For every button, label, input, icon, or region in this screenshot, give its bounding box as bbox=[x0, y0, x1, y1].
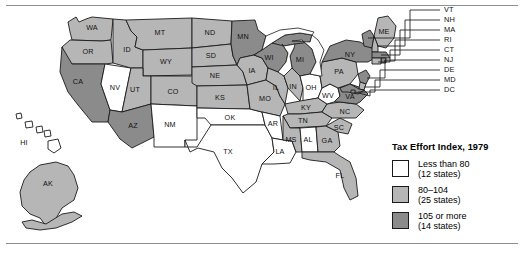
label-IL: IL bbox=[273, 83, 279, 92]
legend-swatch-high bbox=[392, 212, 409, 229]
label-WI: WI bbox=[264, 53, 273, 62]
state-TX[interactable] bbox=[185, 125, 274, 193]
label-IN: IN bbox=[289, 82, 297, 91]
label-FL: FL bbox=[336, 171, 345, 180]
label-MN: MN bbox=[237, 32, 249, 41]
legend-title: Tax Effort Index, 1979 bbox=[392, 142, 520, 152]
state-FL[interactable] bbox=[302, 152, 358, 200]
callout-label-md: MD bbox=[444, 76, 456, 84]
legend-text-low: Less than 80(12 states) bbox=[418, 159, 470, 180]
label-VA: VA bbox=[345, 92, 354, 101]
legend-label-high: 105 or more bbox=[418, 211, 467, 221]
leader-RI bbox=[384, 40, 440, 61]
label-NV: NV bbox=[110, 83, 120, 92]
legend-label-low: Less than 80 bbox=[418, 159, 470, 169]
label-TX: TX bbox=[223, 147, 233, 156]
map-legend: Tax Effort Index, 1979 Less than 80(12 s… bbox=[392, 142, 520, 236]
state-CT[interactable] bbox=[372, 58, 381, 64]
callout-label-ct: CT bbox=[444, 46, 454, 54]
state-HI-4[interactable] bbox=[44, 130, 51, 137]
state-HI-1[interactable] bbox=[16, 113, 22, 119]
callout-label-vt: VT bbox=[444, 6, 454, 14]
label-KS: KS bbox=[215, 93, 225, 102]
label-TN: TN bbox=[298, 116, 308, 125]
legend-swatch-mid bbox=[392, 186, 409, 203]
legend-swatch-low bbox=[392, 160, 409, 177]
label-AL: AL bbox=[303, 135, 312, 144]
legend-count-low: (12 states) bbox=[418, 169, 470, 179]
legend-rows: Less than 80(12 states)80–104(25 states)… bbox=[392, 159, 520, 231]
callout-label-de: DE bbox=[444, 66, 455, 74]
callout-label-ma: MA bbox=[444, 26, 455, 34]
label-AZ: AZ bbox=[128, 121, 138, 130]
label-MI: MI bbox=[296, 55, 304, 64]
callout-label-nh: NH bbox=[444, 16, 455, 24]
label-PA: PA bbox=[334, 67, 343, 76]
state-HI-2[interactable] bbox=[25, 121, 33, 128]
label-LA: LA bbox=[275, 147, 284, 156]
label-ND: ND bbox=[205, 28, 216, 37]
label-OR: OR bbox=[82, 47, 93, 56]
label-NM: NM bbox=[164, 120, 176, 129]
label-CO: CO bbox=[167, 87, 178, 96]
label-SC: SC bbox=[334, 123, 344, 132]
legend-row-low[interactable]: Less than 80(12 states) bbox=[392, 159, 520, 180]
map-figure: WA OR CA NV ID MT WY UT CO AZ NM ND SD N… bbox=[0, 0, 524, 254]
label-MO: MO bbox=[259, 94, 271, 103]
label-UT: UT bbox=[130, 85, 140, 94]
label-NC: NC bbox=[340, 107, 351, 116]
label-ME: ME bbox=[378, 27, 389, 36]
label-AK: AK bbox=[43, 179, 53, 188]
callout-label-nj: NJ bbox=[444, 56, 453, 64]
label-MT: MT bbox=[155, 28, 166, 37]
label-OK: OK bbox=[225, 113, 236, 122]
legend-row-high[interactable]: 105 or more(14 states) bbox=[392, 211, 520, 232]
label-AR: AR bbox=[268, 119, 278, 128]
label-ID: ID bbox=[123, 45, 131, 54]
label-OH: OH bbox=[305, 83, 316, 92]
label-WY: WY bbox=[160, 57, 172, 66]
label-HI: HI bbox=[20, 138, 28, 147]
label-NE: NE bbox=[210, 71, 220, 80]
label-NY: NY bbox=[345, 50, 355, 59]
legend-count-high: (14 states) bbox=[418, 221, 467, 231]
legend-text-mid: 80–104(25 states) bbox=[418, 185, 461, 206]
callout-label-ri: RI bbox=[444, 36, 452, 44]
label-GA: GA bbox=[322, 136, 333, 145]
state-HI-5[interactable] bbox=[48, 139, 61, 153]
label-SD: SD bbox=[206, 51, 216, 60]
label-CA: CA bbox=[73, 77, 83, 86]
label-IA: IA bbox=[248, 66, 255, 75]
leader-DC bbox=[355, 90, 440, 96]
callout-label-dc: DC bbox=[444, 86, 455, 94]
legend-count-mid: (25 states) bbox=[418, 195, 461, 205]
label-MS: MS bbox=[285, 135, 296, 144]
state-HI-3[interactable] bbox=[36, 126, 43, 133]
label-WA: WA bbox=[86, 23, 98, 32]
label-KY: KY bbox=[301, 103, 311, 112]
label-WV: WV bbox=[322, 91, 334, 100]
legend-label-mid: 80–104 bbox=[418, 185, 448, 195]
legend-text-high: 105 or more(14 states) bbox=[418, 211, 467, 232]
legend-row-mid[interactable]: 80–104(25 states) bbox=[392, 185, 520, 206]
